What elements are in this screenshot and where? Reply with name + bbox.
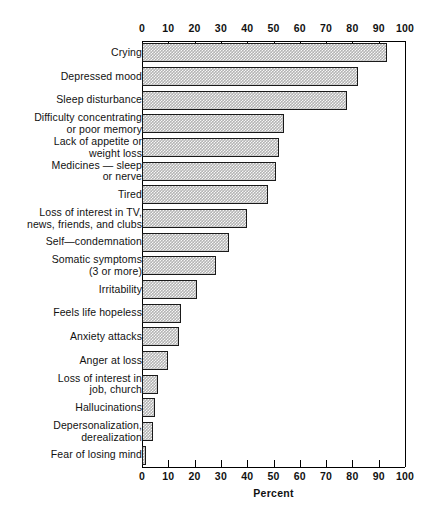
bar bbox=[142, 375, 158, 394]
category-label: Hallucinations bbox=[0, 402, 142, 414]
category-label: Lack of appetite or weight loss bbox=[0, 136, 142, 159]
x-axis-title: Percent bbox=[142, 487, 405, 499]
axis-tick-label-bottom-100: 100 bbox=[385, 470, 425, 482]
bar bbox=[142, 67, 358, 86]
bar bbox=[142, 162, 276, 181]
bar bbox=[142, 256, 216, 275]
axis-tick-bottom-80 bbox=[352, 460, 353, 467]
category-label: Somatic symptoms (3 or more) bbox=[0, 254, 142, 277]
category-label: Anger at loss bbox=[0, 355, 142, 367]
axis-tick-bottom-50 bbox=[274, 460, 275, 467]
axis-tick-top-100 bbox=[405, 41, 406, 48]
axis-tick-bottom-60 bbox=[300, 460, 301, 467]
bar bbox=[142, 209, 247, 228]
bar bbox=[142, 446, 146, 465]
axis-tick-label-top-100: 100 bbox=[385, 22, 425, 34]
category-label: Tired bbox=[0, 189, 142, 201]
bar bbox=[142, 185, 268, 204]
axis-tick-bottom-70 bbox=[326, 460, 327, 467]
bar bbox=[142, 304, 181, 323]
category-label: Difficulty concentrating or poor memory bbox=[0, 112, 142, 135]
category-label: Self—condemnation bbox=[0, 236, 142, 248]
category-label: Sleep disturbance bbox=[0, 94, 142, 106]
bar bbox=[142, 233, 229, 252]
category-label: Feels life hopeless bbox=[0, 307, 142, 319]
axis-tick-bottom-30 bbox=[221, 460, 222, 467]
category-label: Depressed mood bbox=[0, 71, 142, 83]
bar bbox=[142, 91, 347, 110]
bar bbox=[142, 114, 284, 133]
axis-tick-bottom-90 bbox=[379, 460, 380, 467]
category-label: Loss of interest in job, church bbox=[0, 373, 142, 396]
bar bbox=[142, 398, 155, 417]
category-label: Crying bbox=[0, 47, 142, 59]
category-label: Anxiety attacks bbox=[0, 331, 142, 343]
bar bbox=[142, 351, 168, 370]
axis-line-bottom bbox=[142, 467, 405, 468]
category-label: Fear of losing mind bbox=[0, 449, 142, 461]
category-label: Loss of interest in TV, news, friends, a… bbox=[0, 207, 142, 230]
category-label: Irritability bbox=[0, 284, 142, 296]
bar bbox=[142, 138, 279, 157]
axis-line-right bbox=[405, 41, 406, 467]
category-label: Medicines — sleep or nerve bbox=[0, 160, 142, 183]
bar bbox=[142, 43, 387, 62]
category-label: Depersonalization, derealization bbox=[0, 420, 142, 443]
bar bbox=[142, 327, 179, 346]
axis-tick-bottom-40 bbox=[247, 460, 248, 467]
bar bbox=[142, 422, 153, 441]
axis-tick-bottom-100 bbox=[405, 460, 406, 467]
bar bbox=[142, 280, 197, 299]
axis-tick-bottom-20 bbox=[195, 460, 196, 467]
axis-tick-bottom-10 bbox=[168, 460, 169, 467]
bar-chart: 0010102020303040405050606070708080909010… bbox=[0, 0, 426, 515]
